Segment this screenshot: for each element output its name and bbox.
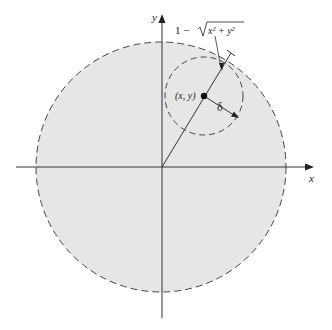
- point-label: (x, y): [175, 90, 196, 102]
- distance-label-radicand: x² + y²: [207, 25, 236, 36]
- boundary-tick: [227, 50, 235, 56]
- x-axis-arrow-icon: [305, 164, 314, 171]
- diagram-canvas: x y (x, y) δ 1 − x² + y²: [0, 0, 332, 330]
- distance-label-prefix: 1 −: [175, 24, 189, 36]
- distance-label: 1 − x² + y²: [175, 22, 244, 36]
- delta-label: δ: [217, 100, 223, 114]
- y-axis-label: y: [151, 11, 157, 23]
- x-axis-label: x: [308, 172, 314, 184]
- point-marker: [201, 93, 207, 99]
- y-axis-arrow-icon: [159, 14, 166, 23]
